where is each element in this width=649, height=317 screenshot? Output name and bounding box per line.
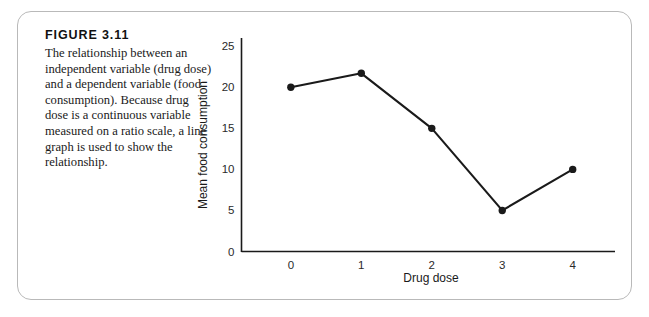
- data-point: [287, 84, 294, 91]
- y-tick-label: 20: [222, 81, 235, 93]
- figure-number-label: FIGURE 3.11: [45, 28, 213, 42]
- y-tick-label: 0: [228, 246, 234, 258]
- series-line-path: [291, 73, 573, 210]
- y-tick-label: 25: [222, 40, 235, 52]
- y-tick-labels: 0510152025: [222, 40, 235, 257]
- data-point: [428, 125, 435, 132]
- y-axis: 0510152025: [222, 38, 242, 258]
- data-point: [569, 166, 576, 173]
- data-point: [499, 207, 506, 214]
- line-chart: 0510152025 01234 Drug dose Mean food con…: [194, 28, 624, 290]
- chart-svg: 0510152025 01234 Drug dose Mean food con…: [194, 28, 624, 290]
- x-tick-labels: 01234: [288, 259, 577, 271]
- data-point: [358, 70, 365, 77]
- data-series: [287, 70, 576, 215]
- y-tick-label: 10: [222, 163, 235, 175]
- caption-block: FIGURE 3.11 The relationship between an …: [45, 28, 213, 171]
- y-tick-label: 5: [228, 204, 234, 216]
- y-tick-label: 15: [222, 122, 235, 134]
- x-tick-label: 2: [429, 259, 435, 271]
- x-tick-label: 3: [499, 259, 505, 271]
- x-axis: 01234: [242, 252, 616, 271]
- x-tick-label: 1: [358, 259, 364, 271]
- x-tick-label: 0: [288, 259, 294, 271]
- figure-caption-text: The relationship between an independent …: [45, 46, 213, 171]
- y-axis-title: Mean food consumption: [196, 81, 210, 209]
- x-tick-label: 4: [570, 259, 577, 271]
- x-axis-title: Drug dose: [403, 271, 459, 285]
- figure-card: FIGURE 3.11 The relationship between an …: [17, 11, 632, 300]
